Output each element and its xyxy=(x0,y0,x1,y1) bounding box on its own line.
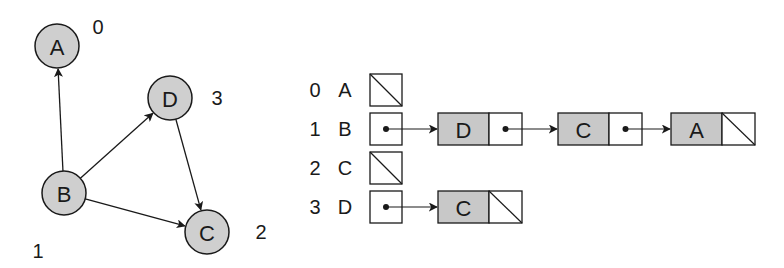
head-pointer-cell xyxy=(370,74,402,106)
head-pointer-cell xyxy=(370,191,437,223)
row-vertex: C xyxy=(338,157,352,179)
adjacency-row-3: 3DC xyxy=(309,191,522,223)
node-label: A xyxy=(50,35,65,60)
list-node-d: D xyxy=(438,113,557,145)
adjacency-row-0: 0A xyxy=(309,74,402,106)
directed-graph: A0B1C2D3 xyxy=(32,16,266,262)
graph-and-adjacency-list-diagram: A0B1C2D3 0A1BDCA2C3DC xyxy=(0,0,784,268)
node-index-label: 0 xyxy=(92,16,103,38)
graph-node-a: A0 xyxy=(35,16,104,68)
head-pointer-cell xyxy=(370,152,402,184)
row-vertex: D xyxy=(338,196,352,218)
node-index-label: 2 xyxy=(255,221,266,243)
edge-d-to-c xyxy=(176,119,201,210)
adjacency-row-1: 1BDCA xyxy=(309,113,755,145)
list-node-c: C xyxy=(438,191,522,223)
head-pointer-cell xyxy=(370,113,437,145)
graph-node-c: C2 xyxy=(185,210,267,254)
graph-node-d: D3 xyxy=(148,76,223,120)
edge-b-to-a xyxy=(58,69,63,171)
node-index-label: 3 xyxy=(211,87,222,109)
list-node-label: C xyxy=(456,196,472,221)
list-node-label: C xyxy=(576,118,592,143)
list-node-label: D xyxy=(456,118,472,143)
node-index-label: 1 xyxy=(32,240,43,262)
node-label: C xyxy=(199,221,215,246)
row-index: 0 xyxy=(309,79,320,101)
node-label: D xyxy=(162,87,178,112)
edge-b-to-c xyxy=(85,199,185,226)
node-label: B xyxy=(57,182,72,207)
list-node-c: C xyxy=(558,113,670,145)
row-vertex: A xyxy=(338,79,352,101)
adjacency-row-2: 2C xyxy=(309,152,402,184)
edge-b-to-d xyxy=(80,113,152,178)
row-index: 3 xyxy=(309,196,320,218)
row-index: 2 xyxy=(309,157,320,179)
list-node-a: A xyxy=(671,113,755,145)
adjacency-list: 0A1BDCA2C3DC xyxy=(309,74,755,223)
list-node-label: A xyxy=(689,118,704,143)
row-index: 1 xyxy=(309,118,320,140)
graph-node-b: B1 xyxy=(32,171,86,262)
row-vertex: B xyxy=(338,118,351,140)
